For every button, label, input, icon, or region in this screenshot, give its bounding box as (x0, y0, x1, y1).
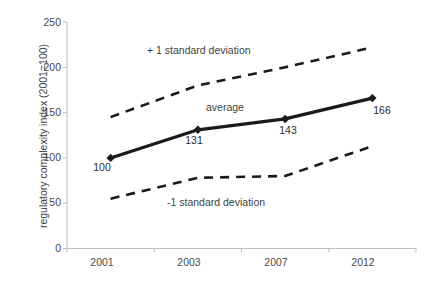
data-point-marker (194, 126, 202, 134)
series-minus-one-sd-line (111, 146, 373, 199)
annotation-minus-one-sd: -1 standard deviation (167, 196, 265, 208)
data-point-marker (368, 94, 376, 102)
data-label-2007: 143 (268, 124, 308, 136)
y-tick-marks (63, 22, 67, 249)
plot-area (0, 0, 438, 286)
chart-container: regulatory complexity index (2001=100) 2… (0, 0, 438, 286)
annotation-plus-one-sd: + 1 standard deviation (147, 44, 251, 56)
data-label-2001: 100 (82, 161, 122, 173)
data-label-2003: 131 (174, 134, 214, 146)
x-tick-marks (67, 249, 416, 253)
annotation-average: average (206, 101, 244, 113)
data-label-2012: 166 (362, 104, 402, 116)
data-point-marker (281, 115, 289, 123)
